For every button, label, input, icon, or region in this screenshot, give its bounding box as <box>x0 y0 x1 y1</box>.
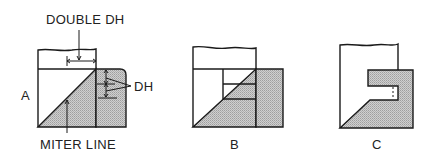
panel-b-label: B <box>230 137 239 152</box>
panel-c: C <box>340 44 413 152</box>
panel-c-joint-shade <box>340 70 413 128</box>
dh-label: DH <box>134 79 153 94</box>
panel-b: B <box>193 47 283 152</box>
panel-a: DH DOUBLE DH MITER LINE A <box>21 12 153 152</box>
panel-a-label: A <box>21 88 30 103</box>
miter-line-label: MITER LINE <box>40 137 116 152</box>
panel-b-miter-shade <box>193 69 256 127</box>
panel-b-upper-frame <box>193 47 256 69</box>
panel-b-right-block <box>256 69 283 127</box>
miter-diagram: DH DOUBLE DH MITER LINE A B C <box>0 0 434 159</box>
double-dh-label: DOUBLE DH <box>46 12 125 27</box>
panel-c-label: C <box>372 137 382 152</box>
